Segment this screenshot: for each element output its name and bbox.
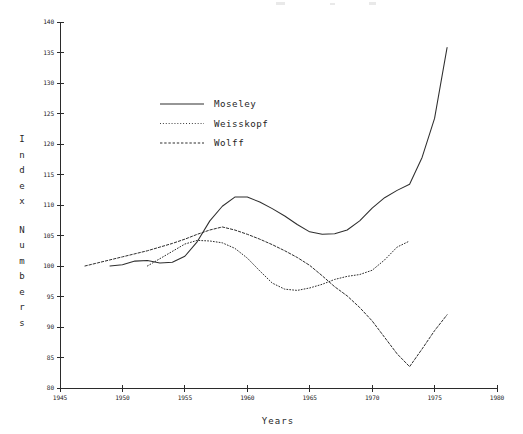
y-tick-label: 110	[43, 201, 54, 208]
chart-canvas: 80859095100105110115120125130135140 1945…	[0, 0, 523, 434]
y-axis-title-char: m	[19, 256, 24, 266]
y-tick-label: 135	[43, 49, 54, 56]
y-axis-title-char: u	[19, 240, 24, 250]
x-axis-tick-labels: 19451950195519601965197019751980	[53, 394, 505, 401]
legend-label-wolff: Wolff	[214, 137, 244, 148]
x-axis: 19451950195519601965197019751980	[53, 385, 505, 401]
scan-artifacts	[276, 2, 376, 5]
y-tick-label: 90	[47, 323, 55, 330]
y-axis-title-char: b	[19, 271, 24, 281]
y-axis-title-char: N	[19, 225, 24, 235]
series-line-moseley	[110, 48, 447, 266]
y-axis-title: IndexNumbers	[19, 134, 25, 328]
y-axis-title-char: d	[19, 165, 24, 175]
y-axis-title-char: r	[19, 302, 25, 312]
x-axis-title-label: Years	[262, 416, 295, 426]
legend-label-moseley: Moseley	[214, 98, 256, 109]
y-axis-title-char: I	[19, 134, 24, 144]
y-axis-title-char: n	[19, 150, 24, 160]
y-tick-label: 85	[47, 354, 55, 361]
y-tick-label: 130	[43, 79, 54, 86]
y-axis-title-char: x	[19, 196, 25, 206]
y-axis-title-char: e	[19, 287, 24, 297]
x-tick-label: 1980	[490, 394, 505, 401]
y-tick-label: 125	[43, 110, 54, 117]
x-tick-label: 1945	[53, 394, 68, 401]
x-tick-label: 1970	[365, 394, 380, 401]
y-axis-tick-labels: 80859095100105110115120125130135140	[43, 18, 54, 391]
y-tick-label: 100	[43, 262, 54, 269]
x-tick-label: 1975	[427, 394, 442, 401]
y-tick-label: 115	[43, 171, 54, 178]
x-tick-label: 1955	[178, 394, 193, 401]
line-chart: 80859095100105110115120125130135140 1945…	[0, 0, 523, 434]
x-tick-label: 1960	[240, 394, 255, 401]
legend-label-weisskopf: Weisskopf	[214, 118, 268, 129]
chart-legend: MoseleyWeisskopfWolff	[160, 98, 268, 148]
x-tick-label: 1965	[303, 394, 318, 401]
y-tick-label: 120	[43, 140, 54, 147]
y-axis-title-char: e	[19, 181, 24, 191]
y-axis-title-char: s	[19, 318, 24, 328]
data-series-group	[85, 48, 447, 367]
y-tick-label: 140	[43, 18, 54, 25]
series-line-wolff	[85, 227, 447, 367]
y-tick-label: 105	[43, 232, 54, 239]
x-tick-label: 1950	[115, 394, 130, 401]
y-tick-label: 80	[47, 384, 55, 391]
y-axis: 80859095100105110115120125130135140	[43, 18, 63, 391]
y-tick-label: 95	[47, 293, 55, 300]
